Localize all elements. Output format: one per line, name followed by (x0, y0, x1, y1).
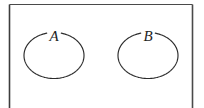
set-diagram-figure: A B (0, 0, 204, 108)
set-a-label: A (48, 28, 59, 44)
figure-background (0, 0, 204, 108)
diagram-canvas: A B (0, 0, 204, 108)
set-b-label: B (143, 28, 152, 44)
